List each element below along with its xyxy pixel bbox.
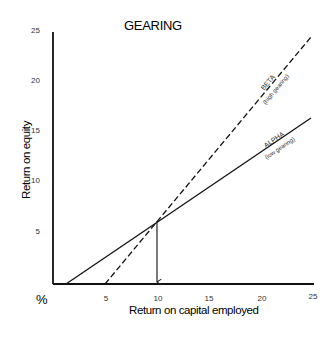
y-tick-10: 10 xyxy=(31,176,40,185)
y-tick-20: 20 xyxy=(31,76,40,85)
beta-label-group: BETA (high gearing) xyxy=(253,66,290,105)
y-tick-labels: 25 20 15 10 5 xyxy=(31,26,40,236)
y-tick-5: 5 xyxy=(36,227,41,236)
chart-title: GEARING xyxy=(124,18,182,33)
x-tick-15: 15 xyxy=(205,294,214,303)
x-tick-25: 25 xyxy=(309,292,318,301)
x-axis-title: Return on capital employed xyxy=(129,304,259,316)
beta-line xyxy=(105,37,311,284)
x-tick-labels: 5 10 15 20 25 xyxy=(104,292,318,303)
x-tick-5: 5 xyxy=(104,294,109,303)
y-axis-title: Return on equity xyxy=(20,120,32,199)
percent-unit-label: % xyxy=(36,292,48,307)
x-tick-20: 20 xyxy=(258,294,267,303)
gearing-chart: GEARING 25 20 15 10 5 5 10 15 20 25 % Re… xyxy=(0,0,329,337)
x-tick-10: 10 xyxy=(154,294,163,303)
y-tick-25: 25 xyxy=(31,26,40,35)
y-tick-15: 15 xyxy=(31,126,40,135)
